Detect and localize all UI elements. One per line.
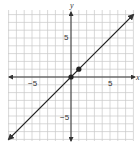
data-point [76, 67, 81, 72]
coordinate-plane-chart: −5 5 5 −5 x y [0, 0, 140, 151]
x-tick-label-5: 5 [108, 79, 113, 88]
x-axis-label: x [135, 73, 140, 82]
y-axis-label: y [69, 1, 74, 10]
y-tick-label-5: 5 [64, 33, 69, 42]
x-tick-label-neg5: −5 [28, 79, 38, 88]
data-point [68, 74, 73, 79]
y-tick-label-neg5: −5 [60, 113, 70, 122]
